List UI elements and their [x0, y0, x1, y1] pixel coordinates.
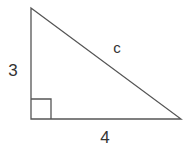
- right-triangle-diagram: 3 c 4: [0, 0, 184, 150]
- vertical-leg-label: 3: [8, 61, 17, 80]
- right-angle-marker: [31, 99, 51, 119]
- horizontal-leg-label: 4: [100, 128, 109, 147]
- triangle-outline: [31, 8, 181, 119]
- hypotenuse-label: c: [113, 39, 121, 56]
